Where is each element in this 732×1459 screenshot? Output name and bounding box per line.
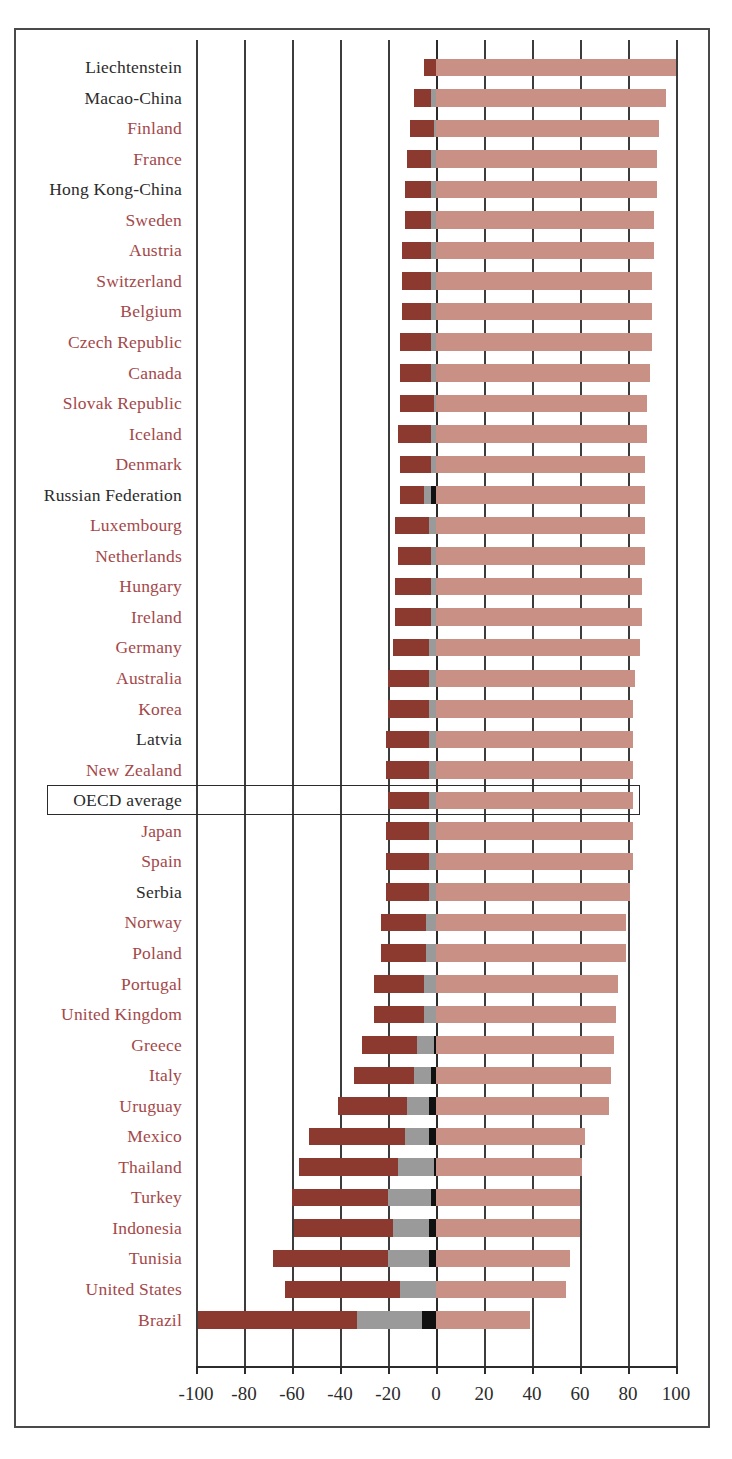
bar-segment-pink <box>436 1097 609 1115</box>
chart-row: United States <box>0 1274 732 1305</box>
stacked-bar <box>196 59 676 77</box>
bar-segment-black <box>429 1097 436 1115</box>
bar-segment-black <box>422 1311 436 1329</box>
chart-row: Indonesia <box>0 1213 732 1244</box>
x-axis-tick--40 <box>340 1366 342 1374</box>
row-label-denmark: Denmark <box>0 449 182 480</box>
bar-segment-gray <box>424 975 436 993</box>
bar-segment-darkred <box>374 975 424 993</box>
bar-segment-pink <box>436 1036 614 1054</box>
stacked-bar <box>196 1097 676 1115</box>
stacked-bar <box>196 1067 676 1085</box>
bar-segment-pink <box>436 120 659 138</box>
bar-segment-gray <box>393 1219 429 1237</box>
row-label-japan: Japan <box>0 816 182 847</box>
bar-segment-darkred <box>386 883 429 901</box>
bar-segment-pink <box>436 761 633 779</box>
bar-segment-darkred <box>395 608 431 626</box>
x-axis-tick--60 <box>292 1366 294 1374</box>
row-label-greece: Greece <box>0 1030 182 1061</box>
chart-row: Netherlands <box>0 541 732 572</box>
chart-row: Tunisia <box>0 1243 732 1274</box>
bar-segment-darkred <box>386 822 429 840</box>
x-axis-tick--20 <box>388 1366 390 1374</box>
bar-segment-pink <box>436 1189 580 1207</box>
row-label-poland: Poland <box>0 938 182 969</box>
bar-segment-pink <box>436 578 642 596</box>
row-label-new-zealand: New Zealand <box>0 755 182 786</box>
bar-segment-pink <box>436 456 645 474</box>
stacked-bar <box>196 639 676 657</box>
bar-segment-pink <box>436 1219 580 1237</box>
bar-segment-pink <box>436 975 618 993</box>
bar-segment-darkred <box>338 1097 408 1115</box>
bar-segment-pink <box>436 333 652 351</box>
stacked-bar <box>196 150 676 168</box>
bar-segment-pink <box>436 150 657 168</box>
chart-row: Thailand <box>0 1152 732 1183</box>
stacked-bar <box>196 1036 676 1054</box>
row-label-finland: Finland <box>0 113 182 144</box>
row-label-ireland: Ireland <box>0 602 182 633</box>
bar-segment-pink <box>436 486 645 504</box>
bar-segment-gray <box>429 700 436 718</box>
row-label-sweden: Sweden <box>0 205 182 236</box>
stacked-bar <box>196 883 676 901</box>
bar-segment-pink <box>436 883 630 901</box>
chart-row: Denmark <box>0 449 732 480</box>
row-label-austria: Austria <box>0 235 182 266</box>
bar-segment-darkred <box>405 181 431 199</box>
x-axis-tick-20 <box>484 1366 486 1374</box>
chart-row: United Kingdom <box>0 999 732 1030</box>
bar-segment-darkred <box>273 1250 388 1268</box>
bar-segment-gray <box>414 1067 431 1085</box>
bar-segment-pink <box>436 639 640 657</box>
chart-row: Greece <box>0 1030 732 1061</box>
row-label-united-states: United States <box>0 1274 182 1305</box>
chart-row: Ireland <box>0 602 732 633</box>
bar-segment-darkred <box>374 1006 424 1024</box>
stacked-bar <box>196 670 676 688</box>
bar-segment-pink <box>436 303 652 321</box>
bar-segment-gray <box>405 1128 429 1146</box>
row-label-mexico: Mexico <box>0 1121 182 1152</box>
bar-segment-gray <box>407 1097 429 1115</box>
stacked-bar <box>196 608 676 626</box>
row-label-thailand: Thailand <box>0 1152 182 1183</box>
bar-segment-pink <box>436 822 633 840</box>
chart-row: Slovak Republic <box>0 388 732 419</box>
bar-segment-darkred <box>398 425 432 443</box>
bar-segment-black <box>429 1128 436 1146</box>
bar-segment-darkred <box>386 761 429 779</box>
bar-segment-darkred <box>424 59 436 77</box>
bar-segment-darkred <box>402 303 431 321</box>
bar-segment-gray <box>429 853 436 871</box>
chart-row: Korea <box>0 694 732 725</box>
bar-segment-gray <box>429 517 436 535</box>
stacked-bar <box>196 272 676 290</box>
row-label-belgium: Belgium <box>0 296 182 327</box>
stacked-bar <box>196 456 676 474</box>
chart-row: Norway <box>0 907 732 938</box>
bar-segment-darkred <box>400 333 431 351</box>
bar-segment-gray <box>400 1281 436 1299</box>
bar-segment-darkred <box>294 1219 392 1237</box>
stacked-bar <box>196 89 676 107</box>
row-label-netherlands: Netherlands <box>0 541 182 572</box>
stacked-bar <box>196 1189 676 1207</box>
stacked-bar <box>196 975 676 993</box>
stacked-bar <box>196 486 676 504</box>
row-label-canada: Canada <box>0 358 182 389</box>
bar-segment-darkred <box>285 1281 400 1299</box>
stacked-bar <box>196 181 676 199</box>
bar-segment-darkred <box>400 364 431 382</box>
stacked-bar <box>196 211 676 229</box>
bar-segment-darkred <box>405 211 431 229</box>
x-axis-tick--100 <box>196 1366 198 1374</box>
bar-segment-gray <box>388 1189 431 1207</box>
bar-segment-pink <box>436 425 647 443</box>
stacked-bar <box>196 242 676 260</box>
bar-segment-pink <box>436 272 652 290</box>
bar-segment-pink <box>436 181 657 199</box>
oecd-average-highlight-box <box>47 785 640 815</box>
